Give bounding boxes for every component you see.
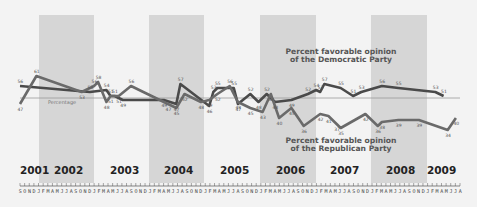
month-tick-label: M [222,188,225,194]
month-tick-label: N [84,188,87,194]
point-label: 40 [277,121,283,126]
month-tick-label: N [195,188,198,194]
month-tick-label: J [227,188,230,194]
month-tick-label: A [403,188,406,194]
month-tick-label: J [93,188,96,194]
month-tick-label: M [56,188,59,194]
month-tick-label: F [97,188,100,194]
month-tick-label: J [232,188,235,194]
month-tick-label: J [338,188,341,194]
month-tick-label: M [167,188,170,194]
democratic-series-title: Percent favorable opinionof the Democrat… [286,47,397,64]
point-label: 48 [256,105,262,110]
month-tick-label: M [445,188,448,194]
month-tick-label: M [380,188,383,194]
month-tick-label: S [185,188,188,194]
band-2008 [371,15,427,183]
point-label: 41 [326,119,332,124]
month-tick-label: D [310,188,313,194]
month-tick-label: J [426,188,429,194]
month-tick-label: M [334,188,337,194]
month-tick-label: M [213,188,216,194]
month-tick-label: N [28,188,31,194]
month-tick-label: A [329,188,332,194]
month-tick-label: D [144,188,147,194]
point-label: 53 [318,85,324,90]
month-tick-label: M [324,188,327,194]
month-tick-label: D [33,188,36,194]
month-tick-label: A [107,188,110,194]
month-tick-label: J [172,188,175,194]
point-label: 39 [416,123,422,128]
month-tick-label: N [417,188,420,194]
month-tick-label: D [199,188,202,194]
month-tick-label: J [371,188,374,194]
month-tick-label: O [246,188,249,194]
point-label: 49 [289,103,295,108]
year-label-2009: 2009 [427,164,456,176]
month-tick-label: O [412,188,415,194]
point-label: 48 [235,105,241,110]
month-tick-label: A [162,188,165,194]
month-tick-label: J [260,188,263,194]
month-tick-label: S [130,188,133,194]
month-tick-label: M [46,188,49,194]
month-tick-label: F [431,188,434,194]
month-tick-label: M [111,188,114,194]
month-tick-label: M [436,188,439,194]
month-tick-label: O [301,188,304,194]
republican-series-title: Percent favorable opinionof the Republic… [286,136,397,153]
point-label: 34 [445,133,451,138]
month-tick-label: A [440,188,443,194]
point-label: 47 [166,107,172,112]
point-label: 39 [396,123,402,128]
month-tick-label: N [250,188,253,194]
point-label: 53 [87,85,93,90]
point-label: 46 [207,109,213,114]
month-tick-label: J [287,188,290,194]
year-label-2008: 2008 [386,164,415,176]
month-tick-label: O [357,188,360,194]
point-label: 43 [260,115,266,120]
month-tick-label: J [65,188,68,194]
point-label: 48 [272,105,278,110]
month-tick-label: J [449,188,452,194]
shaded-year-bands [39,15,427,183]
month-tick-label: A [459,188,462,194]
point-label: 51 [112,89,118,94]
year-label-2007: 2007 [330,164,359,176]
month-tick-label: J [60,188,63,194]
month-tick-label: J [454,188,457,194]
month-tick-label: J [398,188,401,194]
month-tick-label: F [42,188,45,194]
point-label: 45 [248,111,254,116]
month-tick-label: S [297,188,300,194]
point-label: 42 [318,117,324,122]
month-tick-label: M [269,188,272,194]
point-label: 40 [453,121,459,126]
month-tick-label: J [37,188,40,194]
year-label-2002: 2002 [54,164,83,176]
point-label: 56 [18,79,24,84]
month-tick-label: D [366,188,369,194]
point-label: 51 [441,89,447,94]
point-label: 49 [207,103,213,108]
month-tick-label: A [348,188,351,194]
point-label: 52 [248,87,254,92]
point-label: 54 [104,83,110,88]
month-tick-label: J [394,188,397,194]
month-tick-label: O [134,188,137,194]
month-tick-label: J [283,188,286,194]
point-label: 36 [301,129,307,134]
month-tick-label: A [70,188,73,194]
month-tick-label: F [375,188,378,194]
point-label: 55 [215,81,221,86]
month-tick-label: S [408,188,411,194]
month-tick-label: O [190,188,193,194]
month-tick-label: S [352,188,355,194]
point-label: 48 [104,105,110,110]
chart: Percentage 56535451514949475746535555475… [0,0,477,207]
year-label-2003: 2003 [110,164,139,176]
month-tick-label: M [158,188,161,194]
month-tick-label: A [51,188,54,194]
